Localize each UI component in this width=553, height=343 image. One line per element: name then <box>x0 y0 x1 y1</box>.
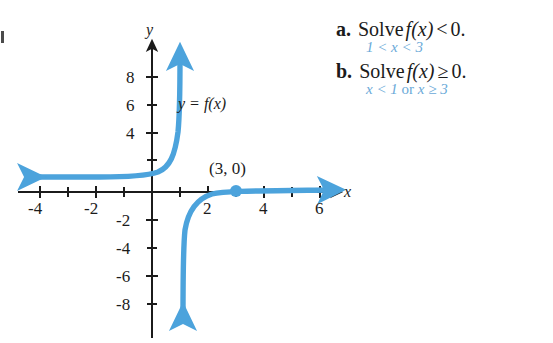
point-coordinate-label: (3, 0) <box>209 160 246 177</box>
y-tick-label--2: -2 <box>116 212 130 229</box>
question-a-answer-part1: 1 < x < 3 <box>366 39 423 55</box>
question-a-value: 0. <box>451 18 466 40</box>
graph-canvas <box>0 0 360 343</box>
figure-root: -4 -2 2 4 6 8 6 4 -2 -4 -6 -8 y x y = f(… <box>0 0 553 343</box>
y-tick-label-4: 4 <box>126 125 135 142</box>
curve-equation-label: y = f(x) <box>178 96 226 112</box>
x-tick-label--2: -2 <box>84 200 98 217</box>
question-a-function: f <box>404 18 412 40</box>
x-axis-label: x <box>344 184 351 200</box>
y-tick-label-6: 6 <box>126 97 135 114</box>
question-b-answer-part1: x < 1 <box>366 81 398 97</box>
y-tick-label--8: -8 <box>116 296 130 313</box>
x-tick-label--4: -4 <box>28 200 42 217</box>
question-b-value: 0. <box>451 60 466 82</box>
question-b-letter: b. <box>336 60 352 83</box>
question-a-text: Solvef(x)<0. <box>358 18 466 41</box>
question-b-answer: x < 1 or x ≥ 3 <box>366 81 553 98</box>
question-a-answer: 1 < x < 3 <box>366 39 553 56</box>
questions-panel: a. Solvef(x)<0. 1 < x < 3 b. Solvef(x)≥0… <box>336 18 553 101</box>
y-axis-label: y <box>146 22 153 38</box>
x-tick-label-4: 4 <box>259 200 268 217</box>
y-tick-label--4: -4 <box>116 240 130 257</box>
question-b-prompt: b. Solvef(x)≥0. <box>336 60 553 83</box>
x-intercept-point <box>230 185 242 197</box>
question-b-answer-conjunction: or <box>402 81 415 97</box>
question-a: a. Solvef(x)<0. 1 < x < 3 <box>336 18 553 56</box>
y-tick-label-8: 8 <box>126 69 135 86</box>
question-b-answer-part2: x ≥ 3 <box>418 81 448 97</box>
x-tick-label-6: 6 <box>315 200 324 217</box>
question-b: b. Solvef(x)≥0. x < 1 or x ≥ 3 <box>336 60 553 98</box>
function-graph: -4 -2 2 4 6 8 6 4 -2 -4 -6 -8 y x y = f(… <box>0 0 360 343</box>
question-b-verb: Solve <box>359 60 405 82</box>
curve-left-branch <box>30 58 180 177</box>
x-tick-label-2: 2 <box>203 200 212 217</box>
question-b-relation: ≥ <box>434 60 451 82</box>
question-b-text: Solvef(x)≥0. <box>359 60 466 83</box>
question-b-argument: (x) <box>412 60 434 82</box>
question-a-argument: (x) <box>411 18 433 40</box>
question-a-prompt: a. Solvef(x)<0. <box>336 18 553 41</box>
question-a-relation: < <box>433 18 450 40</box>
y-tick-label--6: -6 <box>116 268 130 285</box>
question-a-verb: Solve <box>358 18 404 40</box>
question-a-letter: a. <box>336 18 351 41</box>
